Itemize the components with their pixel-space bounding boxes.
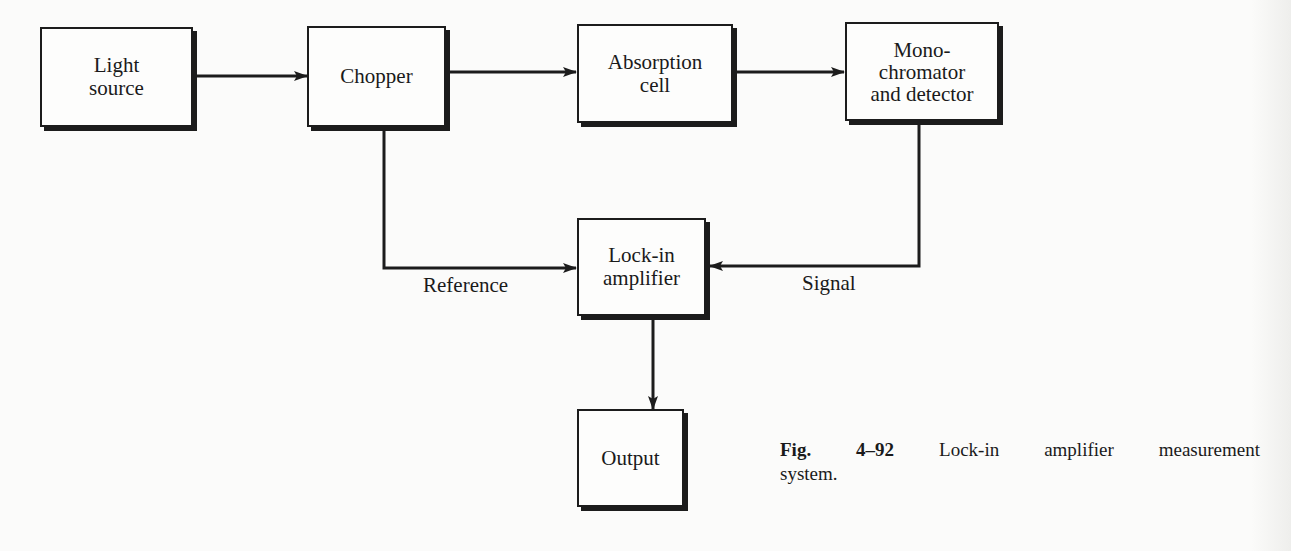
- arrow-signal: [710, 124, 919, 266]
- caption-text-line1: Lock-in amplifier measurement: [939, 439, 1260, 460]
- edge-label-signal: Signal: [802, 272, 856, 295]
- block-lock-in-amplifier: Lock-in amplifier: [577, 218, 706, 316]
- caption-text-line2: system.: [780, 462, 1260, 486]
- block-monochromator-detector: Mono- chromator and detector: [845, 22, 999, 121]
- block-label: Chopper: [340, 65, 412, 88]
- figure-caption: Fig. 4–92 Lock-in amplifier measurement …: [780, 438, 1260, 486]
- block-absorption-cell: Absorption cell: [577, 24, 733, 123]
- arrow-reference: [384, 131, 576, 268]
- block-label: Mono- chromator and detector: [870, 39, 973, 105]
- block-label: Output: [601, 447, 659, 470]
- block-label: Light source: [89, 54, 144, 100]
- block-chopper: Chopper: [307, 26, 446, 127]
- figure-number: Fig. 4–92: [780, 439, 894, 460]
- block-label: Lock-in amplifier: [603, 244, 680, 290]
- block-output: Output: [577, 409, 684, 507]
- block-label: Absorption cell: [608, 51, 703, 97]
- edge-label-reference: Reference: [423, 274, 508, 297]
- block-light-source: Light source: [40, 27, 193, 127]
